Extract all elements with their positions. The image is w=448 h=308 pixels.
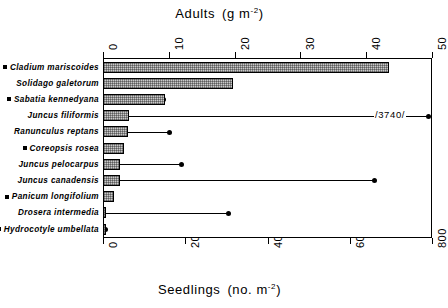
- bottom-axis-tick-label: 800: [436, 228, 448, 248]
- bottom-axis-title-main: Seedlings: [158, 282, 221, 297]
- seedling-whisker-line: [103, 213, 228, 214]
- species-label-row: Ranunculus reptans: [0, 124, 99, 140]
- adult-biomass-bar: [103, 94, 165, 105]
- species-square-marker-icon: [3, 65, 7, 69]
- adult-biomass-bar: [103, 224, 106, 235]
- adult-biomass-bar: [103, 126, 128, 137]
- species-label-row: Juncus pelocarpus: [0, 156, 99, 172]
- species-label: Solidago galetorum: [16, 79, 99, 88]
- adult-biomass-bar: [103, 191, 114, 202]
- adult-biomass-bar: [103, 78, 233, 89]
- species-label-row: Solidago galetorum: [0, 75, 99, 91]
- species-square-marker-icon: [5, 195, 9, 199]
- top-axis-tick-label: 20: [239, 37, 251, 50]
- bottom-axis-tick-label: 0: [107, 241, 119, 248]
- species-square-marker-icon: [0, 227, 1, 231]
- species-label-row: Coreopsis rosea: [0, 140, 99, 156]
- species-label: Hydrocotyle umbellata: [4, 225, 99, 234]
- adult-biomass-bar: [103, 62, 389, 73]
- species-label-row: Juncus canadensis: [0, 172, 99, 188]
- species-label: Juncus pelocarpus: [18, 160, 99, 169]
- species-label-row: Hydrocotyle umbellata: [0, 221, 99, 237]
- species-label: Cladium mariscoides: [10, 63, 99, 72]
- species-square-marker-icon: [7, 97, 11, 101]
- seedling-data-point: [167, 130, 172, 135]
- bottom-axis-tick: [432, 238, 433, 244]
- top-axis-tick: [432, 52, 433, 58]
- bottom-axis-tick: [185, 238, 186, 244]
- top-axis-tick-label: 40: [370, 37, 382, 50]
- species-square-marker-icon: [23, 146, 27, 150]
- species-label: Juncus filiformis: [28, 111, 99, 120]
- top-axis-tick-label: 0: [107, 43, 119, 50]
- species-label: Panicum longifolium: [12, 192, 99, 201]
- bottom-axis-tick: [103, 238, 104, 244]
- top-axis-tick-label: 50: [436, 37, 448, 50]
- species-label: Coreopsis rosea: [30, 144, 99, 153]
- species-label-row: Panicum longifolium: [0, 189, 99, 205]
- top-axis-title-main: Adults: [175, 6, 215, 21]
- adult-biomass-bar: [103, 175, 120, 186]
- bottom-axis-tick: [268, 238, 269, 244]
- bottom-axis-title: Seedlings(no. m-2): [0, 282, 439, 297]
- adult-biomass-bar: [103, 159, 120, 170]
- top-axis-tick-label: 30: [304, 37, 316, 50]
- bottom-axis-title-unit-sup: -2: [268, 282, 276, 291]
- species-label-row: Sabatia kennedyana: [0, 91, 99, 107]
- species-label-row: Cladium mariscoides: [0, 59, 99, 75]
- top-axis-title-unit-sup: -2: [250, 6, 258, 15]
- bottom-axis-tick: [350, 238, 351, 244]
- top-axis-tick-label: 10: [173, 37, 185, 50]
- species-label: Juncus canadensis: [18, 176, 100, 185]
- adult-biomass-bar: [103, 207, 106, 218]
- seedling-whisker-line: [103, 180, 374, 181]
- top-axis-title-unit-post: ): [259, 6, 264, 21]
- adult-biomass-bar: [103, 110, 129, 121]
- species-label: Drosera intermedia: [18, 208, 99, 217]
- species-label: Ranunculus reptans: [14, 127, 99, 136]
- top-axis-title: Adults(g m-2): [0, 6, 439, 21]
- species-label: Sabatia kennedyana: [14, 95, 99, 104]
- bottom-axis-title-unit-pre: (no. m: [227, 282, 267, 297]
- species-label-row: Drosera intermedia: [0, 205, 99, 221]
- axis-break-annotation: /3740/: [374, 109, 406, 120]
- species-label-row: Juncus filiformis: [0, 108, 99, 124]
- top-axis-title-unit-pre: (g m: [222, 6, 250, 21]
- adult-biomass-bar: [103, 143, 124, 154]
- bottom-axis-title-unit-post: ): [276, 282, 281, 297]
- seedling-data-point: [426, 114, 431, 119]
